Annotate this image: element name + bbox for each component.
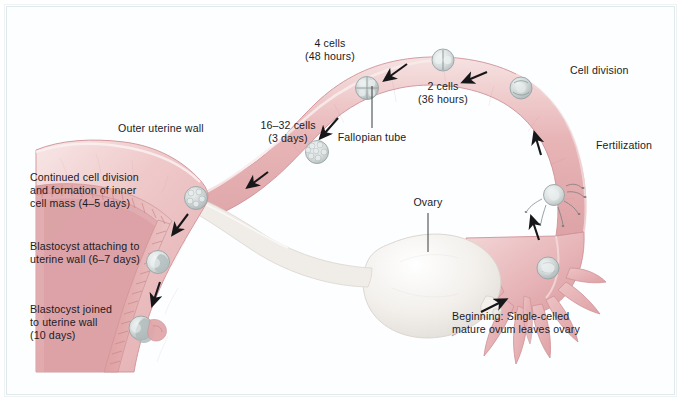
label-cell-division: Cell division [570, 64, 628, 77]
label-fallopian-tube: Fallopian tube [332, 131, 412, 144]
stage-inner-cell-mass [185, 187, 208, 210]
label-two-cells: 2 cells (36 hours) [398, 80, 488, 106]
label-fertilization: Fertilization [596, 139, 652, 152]
label-outer-uterine-wall: Outer uterine wall [118, 122, 204, 135]
stage-four-cells [356, 77, 379, 100]
label-continued-cell-division: Continued cell division and formation of… [30, 171, 139, 211]
stage-two-cells [432, 49, 454, 71]
label-blastocyst-joined: Blastocyst joined to uterine wall (10 da… [30, 303, 112, 343]
label-ovary: Ovary [404, 196, 452, 209]
stage-blastocyst-attaching [147, 251, 170, 274]
label-four-cells: 4 cells (48 hours) [282, 37, 378, 63]
label-beginning: Beginning: Single-celled mature ovum lea… [452, 310, 580, 336]
arrow-up-tube [536, 138, 541, 155]
stage-ovum-released [537, 257, 559, 279]
label-sixteen-thirtytwo-cells: 16–32 cells (3 days) [240, 119, 336, 145]
stage-cell-division [510, 77, 532, 99]
ovarian-ligament-shape [190, 197, 372, 287]
embryo-development-figure: 4 cells (48 hours) 2 cells (36 hours) 16… [0, 0, 681, 401]
label-blastocyst-attaching: Blastocyst attaching to uterine wall (6–… [30, 240, 140, 266]
